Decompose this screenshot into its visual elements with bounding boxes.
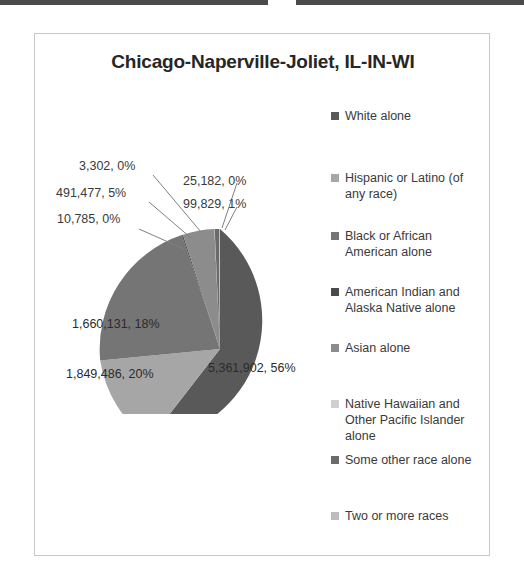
legend-swatch-icon (331, 400, 339, 408)
legend-item-label: Native Hawaiian and Other Pacific Island… (345, 396, 483, 444)
legend-swatch-icon (331, 112, 339, 120)
callout-some-other-race: 99,829, 1% (183, 197, 246, 211)
legend-item-label: Black or African American alone (345, 228, 483, 260)
legend-item-label: Two or more races (345, 508, 449, 524)
legend-item[interactable]: White alone (331, 108, 483, 124)
legend-item[interactable]: Two or more races (331, 508, 483, 524)
legend-swatch-icon (331, 288, 339, 296)
legend-item-label: Some other race alone (345, 452, 471, 468)
callout-asian-alone: 491,477, 5% (56, 186, 126, 200)
slice-label-white-alone: 5,361,902, 56% (208, 361, 296, 375)
slice-label-black-or-african-american: 1,660,131, 18% (72, 317, 160, 331)
top-dark-band (0, 0, 524, 5)
legend-item[interactable]: Some other race alone (331, 452, 483, 468)
legend-item[interactable]: Hispanic or Latino (of any race) (331, 170, 483, 202)
slice-label-hispanic-or-latino: 1,849,486, 20% (66, 367, 154, 381)
legend-swatch-icon (331, 174, 339, 182)
legend-item-label: White alone (345, 108, 411, 124)
legend-item[interactable]: Native Hawaiian and Other Pacific Island… (331, 396, 483, 444)
legend-swatch-icon (331, 456, 339, 464)
top-band-gap (268, 0, 296, 5)
legend-item-label: Hispanic or Latino (of any race) (345, 170, 483, 202)
legend-item[interactable]: Asian alone (331, 340, 483, 356)
legend-item[interactable]: American Indian and Alaska Native alone (331, 284, 483, 316)
callout-american-indian: 25,182, 0% (183, 174, 246, 188)
callout-two-or-more-races: 10,785, 0% (57, 212, 120, 226)
legend-item-label: Asian alone (345, 340, 410, 356)
legend-swatch-icon (331, 344, 339, 352)
callout-native-hawaiian: 3,302, 0% (79, 159, 135, 173)
chart-frame[interactable]: Chicago-Naperville-Joliet, IL-IN-WI (34, 33, 490, 556)
legend-item[interactable]: Black or African American alone (331, 228, 483, 260)
legend-swatch-icon (331, 232, 339, 240)
legend-swatch-icon (331, 512, 339, 520)
legend-item-label: American Indian and Alaska Native alone (345, 284, 483, 316)
